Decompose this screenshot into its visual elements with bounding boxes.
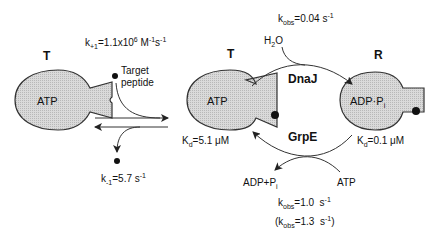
target-peptide-dot bbox=[112, 73, 118, 79]
peptide-in-curve bbox=[116, 83, 160, 118]
state-label-middle: T bbox=[227, 48, 234, 60]
atp-substrate-label: ATP bbox=[337, 178, 356, 188]
kobs-exchange-label: kobs=1.0 s-1 bbox=[278, 198, 331, 208]
nucleotide-middle: ATP bbox=[207, 96, 228, 107]
target-peptide-label-1: Target bbox=[121, 66, 149, 76]
bound-peptide-dot-right bbox=[412, 107, 420, 115]
nucleotide-right: ADP·Pi bbox=[350, 96, 385, 107]
dnaj-label: DnaJ bbox=[288, 73, 317, 85]
diagram-canvas bbox=[0, 0, 427, 237]
protein-left-t bbox=[15, 70, 112, 130]
kd-middle: Kd=5.1 μM bbox=[182, 136, 229, 146]
water-label: H2O bbox=[264, 36, 283, 46]
peptide-out-curve bbox=[117, 127, 140, 152]
bound-peptide-dot-middle bbox=[271, 111, 279, 119]
protein-middle-t bbox=[187, 70, 279, 130]
water-in-curve bbox=[282, 47, 305, 65]
nucleotide-exchange-curve bbox=[275, 157, 340, 172]
state-label-left: T bbox=[43, 50, 50, 62]
kd-right: Kd=0.1 μM bbox=[357, 136, 404, 146]
nucleotide-left: ATP bbox=[37, 96, 58, 107]
grpe-label: GrpE bbox=[288, 131, 317, 143]
state-label-right: R bbox=[374, 49, 383, 61]
kobs-exchange-alt-label: (kobs=1.3 s-1) bbox=[275, 217, 335, 227]
kon-label: k+1=1.1x106 M-1s-1 bbox=[85, 38, 166, 48]
adp-pi-product-label: ADP+Pi bbox=[243, 178, 278, 188]
released-peptide-dot bbox=[114, 158, 120, 164]
kobs-hydrolysis-label: kobs=0.04 s-1 bbox=[278, 14, 334, 24]
koff-label: k-1=5.7 s-1 bbox=[101, 174, 146, 184]
target-peptide-label-2: peptide bbox=[121, 78, 154, 88]
